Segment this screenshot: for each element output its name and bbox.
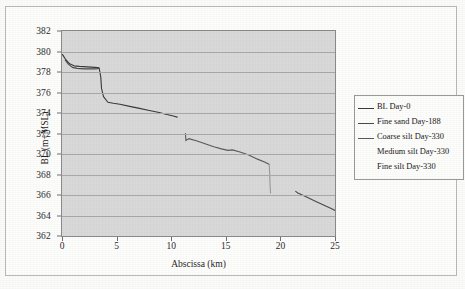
legend-item: Coarse silt Day-330 <box>358 130 460 145</box>
legend-item-label: Coarse silt Day-330 <box>377 133 444 141</box>
legend-item: Medium silt Day-330 <box>358 145 460 160</box>
gridline <box>62 195 335 196</box>
x-tick-mark <box>117 237 118 241</box>
x-tick-label: 0 <box>42 241 82 251</box>
legend-item-label: Fine silt Day-330 <box>377 163 436 171</box>
legend: BL Day-0Fine sand Day-188Coarse silt Day… <box>354 95 464 180</box>
series-line <box>63 55 178 118</box>
plot-area <box>61 30 336 237</box>
x-tick-mark <box>335 237 336 241</box>
legend-item: Fine sand Day-188 <box>358 115 460 130</box>
legend-swatch-icon <box>358 148 374 158</box>
y-tick-mark <box>57 31 61 32</box>
y-tick-label: 362 <box>6 231 56 241</box>
y-tick-label: 382 <box>6 26 56 36</box>
y-axis-title: BL (m+MSL) <box>40 63 50 213</box>
series-line <box>269 164 270 193</box>
legend-item: BL Day-0 <box>358 100 460 115</box>
legend-swatch-icon <box>358 118 374 128</box>
gridline <box>62 93 335 94</box>
y-tick-label: 380 <box>6 47 56 57</box>
x-tick-mark <box>280 237 281 241</box>
gridline <box>62 52 335 53</box>
legend-swatch-icon <box>358 163 374 173</box>
y-tick-mark <box>57 51 61 52</box>
y-tick-mark <box>57 195 61 196</box>
gridline <box>62 113 335 114</box>
gridline <box>62 175 335 176</box>
gridline <box>62 72 335 73</box>
x-tick-label: 25 <box>315 241 355 251</box>
legend-item-label: Fine sand Day-188 <box>377 118 441 126</box>
x-tick-mark <box>226 237 227 241</box>
legend-swatch-icon <box>358 133 374 143</box>
x-tick-mark <box>171 237 172 241</box>
y-tick-mark <box>57 72 61 73</box>
gridline <box>62 216 335 217</box>
gridline <box>62 134 335 135</box>
series-line <box>185 134 269 165</box>
x-tick-label: 5 <box>97 241 137 251</box>
gridline <box>62 154 335 155</box>
y-tick-mark <box>57 113 61 114</box>
legend-item: Fine silt Day-330 <box>358 160 460 175</box>
y-tick-mark <box>57 215 61 216</box>
legend-item-label: BL Day-0 <box>377 103 410 111</box>
y-tick-mark <box>57 92 61 93</box>
x-tick-label: 20 <box>260 241 300 251</box>
y-tick-mark <box>57 154 61 155</box>
x-axis-title: Abscissa (km) <box>61 259 336 269</box>
y-tick-mark <box>57 236 61 237</box>
x-tick-label: 15 <box>206 241 246 251</box>
figure-frame: 362364366368370372374376378380382 051015… <box>5 6 457 276</box>
figure-page: 362364366368370372374376378380382 051015… <box>0 0 465 289</box>
legend-item-label: Medium silt Day-330 <box>377 148 449 156</box>
x-tick-mark <box>62 237 63 241</box>
y-tick-mark <box>57 174 61 175</box>
legend-swatch-icon <box>358 103 374 113</box>
x-tick-label: 10 <box>151 241 191 251</box>
y-tick-mark <box>57 133 61 134</box>
